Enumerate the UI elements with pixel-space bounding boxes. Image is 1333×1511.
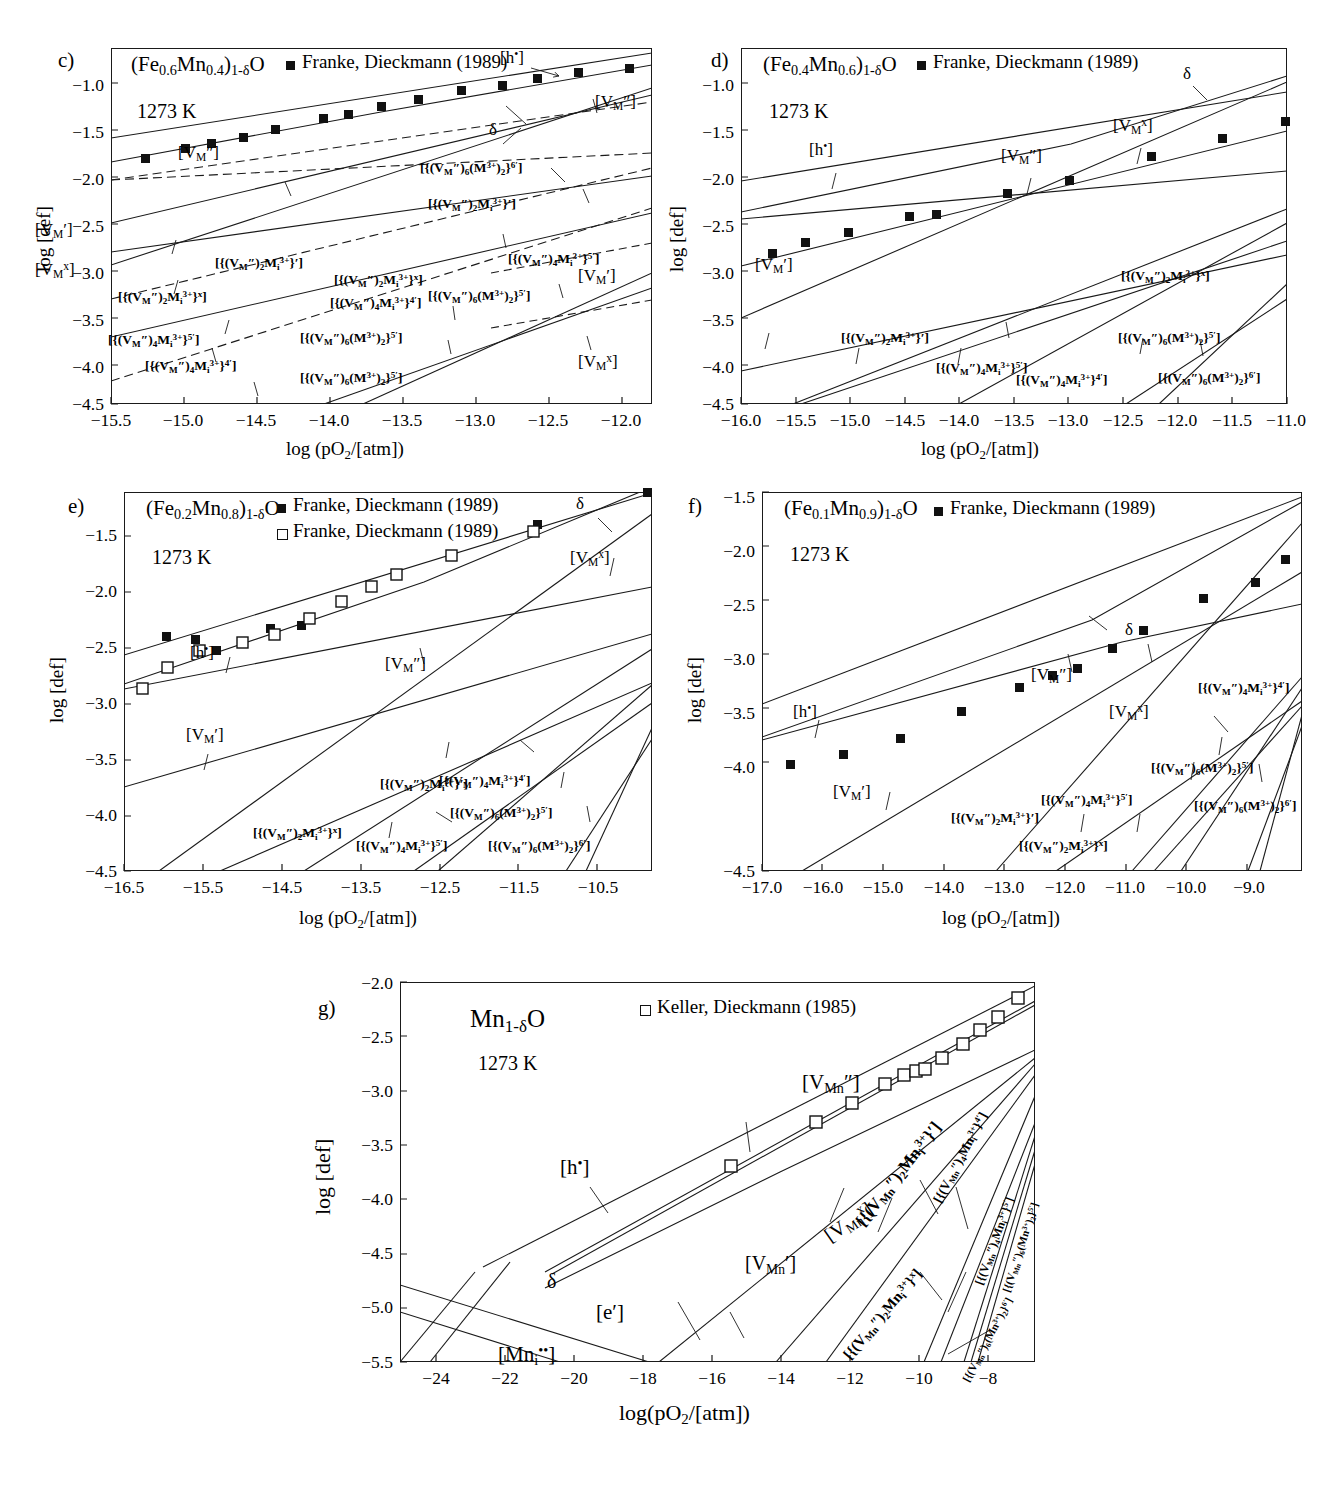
panel-g-label-delta: δ	[547, 1270, 556, 1293]
panel-c-label-vm1-right: [VM′]	[578, 266, 616, 286]
panel-c-label-vm1: [VM′]	[35, 220, 73, 240]
panel-e-xtick-5: −11.5	[489, 877, 549, 898]
panel-d-label-v2mi-p: [{(VM″)2Mi3+}′]	[841, 330, 929, 346]
panel-e-label-vm2: [VM″]	[385, 654, 426, 674]
panel-g-xtick-6: −12	[825, 1368, 875, 1389]
panel-e-label-v6m2-6p: [{(VM″)6(M3+)2}6′]	[488, 838, 590, 854]
panel-d-label-vm2: [VM″]	[1001, 146, 1042, 166]
panel-d-xaxis-title: log (pO2/[atm])	[921, 438, 1039, 460]
panel-c-label-v2mi-prime: [{(VM″)2Mi3+}′]	[428, 196, 516, 212]
panel-g-yaxis-title: log [def]	[310, 1139, 336, 1215]
panel-c-label-v6m2-5p: [{(VM″)6(M3+)2}5′]	[428, 288, 530, 304]
panel-g-ytick-5: −4.5	[337, 1243, 393, 1264]
panel-g-label-e: [e′]	[596, 1300, 624, 1325]
panel-c-xtick-0: −15.5	[81, 410, 141, 431]
panel-c-label-h: [h•]	[500, 48, 524, 68]
panel-d-label-v6m2-6p: [{(VM″)6(M3+)2}6′]	[1158, 370, 1260, 386]
panel-g-xtick-5: −14	[756, 1368, 806, 1389]
panel-c-label-v6m2-6: [{(VM″)6(M3+)2}6′]	[420, 160, 522, 176]
panel-f-label-v2mi-p: [{(VM″)2Mi3+}′]	[951, 810, 1039, 826]
panel-d-label-v4mi-5p: [{(VM″)4Mi3+}5′]	[936, 360, 1027, 376]
panel-c-label-v4mi-5p: [{(VM″)4Mi3+}5′]	[108, 332, 199, 348]
panel-d-xtick-7: −12.5	[1093, 410, 1153, 431]
panel-c-label-v6m2-5p2: [{(VM″)6(M3+)2}5′]	[300, 330, 402, 346]
panel-f-xtick-4: −13.0	[974, 877, 1034, 898]
panel-e-ytick-5: −4.0	[69, 805, 117, 826]
panel-d-label-delta: δ	[1183, 64, 1191, 84]
panel-d-xtick-0: −16.0	[711, 410, 771, 431]
panel-g-data-markers-open	[725, 992, 1024, 1172]
panel-f-ytick-0: −1.5	[707, 487, 755, 508]
panel-c-label-delta: δ	[489, 120, 497, 140]
panel-c-label-v4mi-4p: [{(VM″)4Mi3+}4′]	[145, 358, 236, 374]
panel-e-label-vmx: [VMx]	[570, 548, 610, 568]
panel-f-label-vmx: [VMx]	[1109, 702, 1149, 722]
panel-d-xtick-2: −15.0	[820, 410, 880, 431]
panel-g-ytick-7: −5.5	[337, 1352, 393, 1373]
panel-e-ytick-2: −2.5	[69, 637, 117, 658]
panel-e-xtick-3: −13.5	[331, 877, 391, 898]
panel-e-label-vm1: [VM′]	[186, 725, 224, 745]
panel-f-label-v2mi-x: [{(VM″)2Mi3+}x]	[1019, 838, 1108, 854]
panel-e-label-v2mi-x: [{(VM″)2Mi3+}x]	[253, 825, 342, 841]
panel-d-xtick-5: −13.5	[984, 410, 1044, 431]
panel-c-xtick-5: −13.0	[445, 410, 505, 431]
panel-e-xaxis-title: log (pO2/[atm])	[299, 907, 417, 929]
panel-g-label-h: [h•]	[560, 1155, 590, 1180]
panel-c-ytick-0: −1.0	[56, 75, 104, 96]
panel-g-xtick-0: −24	[411, 1368, 461, 1389]
panel-c-label-v2mi-x-mid: [{(VM″)2Mi3+}′]	[215, 255, 303, 271]
panel-e-label-v6m2-5p: [{(VM″)6(M3+)2}5′]	[450, 805, 552, 821]
panel-f-ytick-1: −2.0	[707, 541, 755, 562]
panel-f: f) (Fe0.1Mn0.9)1-δO 1273 K Franke, Dieck…	[666, 480, 1333, 950]
panel-d-xtick-10: −11.0	[1256, 410, 1316, 431]
panel-f-ytick-5: −4.0	[707, 757, 755, 778]
panel-g-ytick-0: −2.0	[337, 973, 393, 994]
panel-f-label-h: [h•]	[793, 702, 817, 722]
panel-e-yaxis-title: log [def]	[46, 657, 68, 723]
panel-g-xaxis-title: log(pO2/[atm])	[619, 1400, 750, 1426]
panel-e-ytick-1: −2.0	[69, 581, 117, 602]
panel-e-label-v4mi-4p: [{(VM″)4Mi3+}4′]	[439, 773, 530, 789]
panel-f-xtick-5: −12.0	[1035, 877, 1095, 898]
panel-f-label-vm2: [VM″]	[1031, 665, 1072, 685]
panel-e-label-h: [h•]	[190, 643, 214, 663]
panel-e-ytick-3: −3.0	[69, 693, 117, 714]
panel-d-ytick-1: −1.5	[686, 122, 734, 143]
panel-d-xtick-3: −14.5	[875, 410, 935, 431]
panel-e-xtick-2: −14.5	[252, 877, 312, 898]
panel-c-xtick-1: −15.0	[153, 410, 213, 431]
panel-f-xtick-2: −15.0	[853, 877, 913, 898]
panel-d-curves	[741, 48, 1287, 404]
panel-f-ytick-3: −3.0	[707, 649, 755, 670]
panel-g-curves	[400, 982, 1035, 1362]
panel-d-label-vmx: [VMx]	[1113, 116, 1153, 136]
panel-g-label-mni: [Mni••]	[498, 1342, 555, 1367]
panel-e-label-v4mi-5p: [{(VM″)4Mi3+}5′]	[356, 838, 447, 854]
panel-d-xtick-1: −15.5	[766, 410, 826, 431]
panel-f-xaxis-title: log (pO2/[atm])	[942, 907, 1060, 929]
panel-c-label-v4mi-4p2: [{(VM″)4Mi3+}4′]	[330, 295, 421, 311]
panel-c-xtick-2: −14.5	[226, 410, 286, 431]
panel-d-label-vm1: [VM′]	[755, 255, 793, 275]
panel-d-ytick-4: −3.0	[686, 263, 734, 284]
panel-f-ytick-4: −3.5	[707, 703, 755, 724]
panel-g-xtick-2: −20	[549, 1368, 599, 1389]
panel-c-label-vmx-right: [VMx]	[578, 352, 618, 372]
panel-e-data-markers-open	[137, 526, 539, 694]
panel-e-tag: e)	[68, 494, 84, 519]
panel-c-ytick-1: −1.5	[56, 122, 104, 143]
panel-c-label-v2mi-x2: [{(VM″)2Mi3+}x]	[334, 272, 423, 288]
panel-c-label-v6m2-5p3: [{(VM″)6(M3+)2}5′]	[300, 370, 402, 386]
panel-c-ytick-2: −2.0	[56, 169, 104, 190]
panel-g-label-vmn1: [VMn′]	[745, 1252, 796, 1275]
panel-g-xtick-1: −22	[480, 1368, 530, 1389]
panel-e-label-delta: δ	[576, 494, 584, 514]
panel-d-ytick-3: −2.5	[686, 216, 734, 237]
panel-e-ytick-4: −3.5	[69, 749, 117, 770]
panel-f-ytick-2: −2.5	[707, 595, 755, 616]
panel-g-ytick-6: −5.0	[337, 1297, 393, 1318]
panel-c-label-vm2-right: [VM″]	[595, 92, 636, 112]
panel-g-ytick-2: −3.0	[337, 1081, 393, 1102]
panel-d-xtick-8: −12.0	[1147, 410, 1207, 431]
